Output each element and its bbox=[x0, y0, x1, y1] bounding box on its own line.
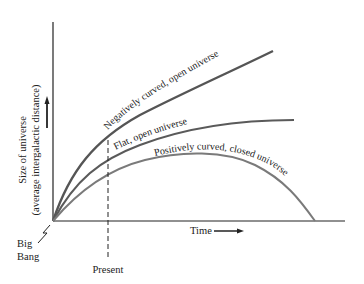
big-bang-label-line1: Big bbox=[17, 238, 33, 249]
curve-label-open: Negatively curved, open universe bbox=[101, 47, 221, 131]
curve-label-closed: Positively curved, closed universe bbox=[153, 140, 291, 178]
up-arrow-icon bbox=[45, 96, 50, 128]
big-bang-label-line2: Bang bbox=[17, 251, 40, 262]
x-axis-label: Time bbox=[190, 225, 212, 236]
y-axis-label-line1: Size of universe bbox=[17, 116, 28, 184]
y-axis-label-line2: (average intergalactic distance) bbox=[30, 84, 42, 215]
present-label: Present bbox=[93, 264, 124, 275]
lightning-icon bbox=[38, 225, 50, 243]
expansion-of-universe-diagram: Size of universe (average intergalactic … bbox=[0, 0, 364, 284]
right-arrow-icon bbox=[214, 229, 244, 234]
curve-negatively-curved bbox=[53, 51, 273, 221]
curve-flat bbox=[53, 120, 294, 221]
y-axis-label: Size of universe (average intergalactic … bbox=[17, 84, 42, 215]
